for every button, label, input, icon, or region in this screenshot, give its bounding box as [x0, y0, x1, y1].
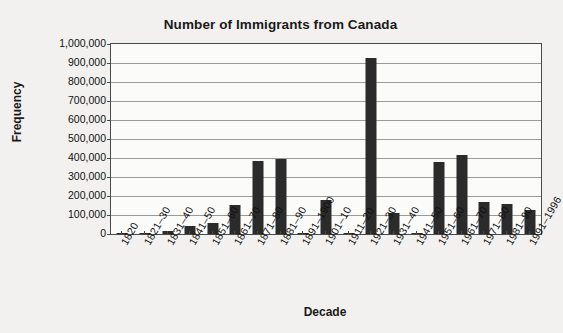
y-tick-label: 100,000: [30, 209, 106, 219]
y-axis-title: Frequency: [10, 77, 24, 147]
bar-slot: [405, 44, 428, 234]
bar-slot: [450, 44, 473, 234]
bar-slot: [269, 44, 292, 234]
y-tick-label: 600,000: [30, 114, 106, 124]
y-axis-tick-labels: 1,000,000900,000800,000700,000600,000500…: [30, 43, 106, 233]
bar-slot: [179, 44, 202, 234]
y-tick-label: 700,000: [30, 95, 106, 105]
bar-slot: [518, 44, 541, 234]
y-tick-label: 200,000: [30, 190, 106, 200]
bar-slot: [292, 44, 315, 234]
y-tick-label: 300,000: [30, 171, 106, 181]
bar-slot: [134, 44, 157, 234]
bar-slot: [360, 44, 383, 234]
x-axis-title: Decade: [110, 305, 540, 319]
chart-title: Number of Immigrants from Canada: [0, 17, 561, 32]
bar-slot: [156, 44, 179, 234]
y-tick-label: 500,000: [30, 133, 106, 143]
bar-slot: [428, 44, 451, 234]
x-axis-tick-labels: 18201821–301831–401841–501851–601861–701…: [110, 235, 540, 301]
y-tick-label: 0: [30, 228, 106, 238]
y-tick-label: 1,000,000: [30, 38, 106, 48]
bar-slot: [202, 44, 225, 234]
bar-slot: [337, 44, 360, 234]
bar-slot: [473, 44, 496, 234]
y-tick-label: 800,000: [30, 76, 106, 86]
y-tick-label: 900,000: [30, 57, 106, 67]
bar-slot: [111, 44, 134, 234]
y-tick-label: 400,000: [30, 152, 106, 162]
bar-slot: [224, 44, 247, 234]
